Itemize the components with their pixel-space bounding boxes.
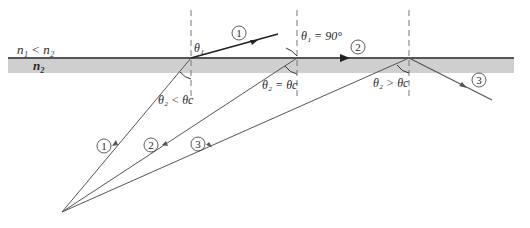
arrow-icon [459, 82, 467, 88]
medium-n2-band [8, 58, 514, 73]
incident-ray-3 [62, 58, 409, 212]
incident-rays [62, 58, 409, 212]
diagram-canvas: 1 2 3 1 2 3 n₁ < n₂ n₂ θ₁ θ₂ < θc θ₁ = 9… [0, 0, 530, 228]
ray-2-label: 2 [355, 41, 361, 53]
theta2-label-3: θ₂ > θc [373, 76, 409, 90]
theta1-label-1: θ₁ [194, 41, 204, 55]
ray-3-label: 3 [476, 74, 482, 86]
arc-theta2-1 [180, 72, 191, 79]
incident-ray-1 [62, 58, 191, 212]
arc-theta1-2 [286, 48, 297, 56]
incident-ray-3-label: 3 [195, 138, 201, 150]
arrow-icon [250, 40, 258, 45]
upper-medium-label: n₁ < n₂ [17, 42, 55, 57]
theta1-label-2: θ₁ = 90° [301, 29, 342, 43]
ray-1-label: 1 [236, 27, 242, 39]
arrow-icon [112, 140, 118, 146]
incident-ray-1-label: 1 [101, 140, 107, 152]
lower-medium-label: n₂ [33, 58, 45, 73]
theta2-label-2: θ₂ = θc [262, 78, 298, 92]
theta2-label-1: θ₂ < θc [158, 93, 194, 107]
incident-ray-2-label: 2 [148, 139, 154, 151]
